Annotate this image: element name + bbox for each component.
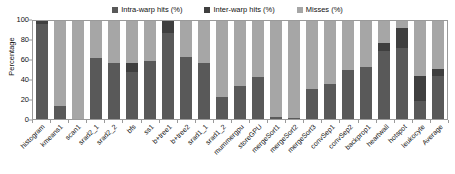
square-swatch-icon: [297, 7, 303, 13]
stacked-bar: [414, 21, 425, 119]
bar-segment: [90, 21, 101, 58]
bar-segment: [378, 51, 389, 119]
bar-slot: [177, 21, 195, 119]
y-axis-tick-mark: [29, 60, 32, 61]
y-axis-tick-label: 80: [21, 36, 29, 44]
stacked-bar: [342, 21, 353, 119]
bar-segment: [414, 21, 425, 76]
bar-slot: [339, 21, 357, 119]
y-axis-tick-mark: [29, 100, 32, 101]
bar-segment: [216, 21, 227, 97]
bar-segment: [360, 67, 371, 119]
bar-segment: [234, 21, 245, 86]
stacked-bar: [306, 21, 317, 119]
bar-segment: [360, 21, 371, 67]
x-axis-label-slot: srad1_1: [195, 121, 213, 174]
stacked-bar: [36, 21, 47, 119]
bar-segment: [180, 57, 191, 119]
bar-segment: [144, 21, 155, 61]
bar-segment: [270, 21, 281, 117]
bar-segment: [162, 21, 173, 33]
legend-item: Misses (%): [297, 5, 343, 14]
x-axis-label-slot: backprop1: [358, 121, 376, 174]
x-axis-label-slot: kmeans1: [50, 121, 68, 174]
bar-slot: [123, 21, 141, 119]
x-axis-label-slot: leukocyte: [412, 121, 430, 174]
bar-segment: [396, 28, 407, 49]
stacked-bar: [324, 21, 335, 119]
bar-segment: [180, 21, 191, 57]
bar-slot: [321, 21, 339, 119]
bar-group: [33, 21, 447, 119]
stacked-bar: [270, 21, 281, 119]
bar-slot: [231, 21, 249, 119]
bar-segment: [54, 106, 65, 119]
legend-item: Intra-warp hits (%): [112, 5, 182, 14]
bar-segment: [324, 84, 335, 119]
y-axis-tick-label: 20: [21, 96, 29, 104]
bar-segment: [108, 63, 119, 119]
y-axis-title: Percentage: [7, 22, 16, 92]
bar-slot: [375, 21, 393, 119]
bar-slot: [303, 21, 321, 119]
x-axis-label-slot: b+tree2: [177, 121, 195, 174]
x-axis-label-slot: scan1: [68, 121, 86, 174]
bar-segment: [126, 63, 137, 72]
bar-slot: [393, 21, 411, 119]
square-swatch-icon: [112, 7, 118, 13]
bar-segment: [216, 97, 227, 119]
bar-segment: [126, 72, 137, 119]
bar-segment: [396, 21, 407, 28]
stacked-bar: [378, 21, 389, 119]
bar-segment: [432, 21, 443, 69]
stacked-bar: [432, 21, 443, 119]
stacked-bar: [162, 21, 173, 119]
bar-segment: [252, 21, 263, 77]
bar-slot: [195, 21, 213, 119]
stacked-bar: [180, 21, 191, 119]
y-axis-tick-mark: [29, 20, 32, 21]
bar-segment: [144, 61, 155, 119]
legend-label: Inter-warp hits (%): [213, 5, 274, 14]
x-axis-label: bfs: [125, 123, 137, 135]
bar-slot: [87, 21, 105, 119]
bar-segment: [270, 117, 281, 119]
square-swatch-icon: [204, 7, 210, 13]
y-axis-tick-label: 40: [21, 76, 29, 84]
x-axis-label-slot: srad2_1: [86, 121, 104, 174]
y-axis-tick-label: 60: [21, 56, 29, 64]
stacked-bar: [144, 21, 155, 119]
legend-label: Intra-warp hits (%): [121, 5, 182, 14]
stacked-bar: [198, 21, 209, 119]
stacked-bar: [288, 21, 299, 119]
bar-segment: [72, 21, 83, 119]
bar-segment: [378, 21, 389, 43]
x-axis-label-slot: heartwall: [376, 121, 394, 174]
x-axis-label-slot: b+tree1: [159, 121, 177, 174]
stacked-bar: [396, 21, 407, 119]
bar-segment: [342, 70, 353, 119]
bar-slot: [267, 21, 285, 119]
bar-slot: [213, 21, 231, 119]
x-axis-label-slot: ss1: [141, 121, 159, 174]
bar-segment: [288, 118, 299, 119]
x-axis-label-slot: bfs: [122, 121, 140, 174]
bar-segment: [54, 21, 65, 106]
bar-slot: [33, 21, 51, 119]
bar-segment: [342, 21, 353, 70]
bar-slot: [105, 21, 123, 119]
bar-segment: [306, 89, 317, 119]
legend-label: Misses (%): [306, 5, 343, 14]
bar-segment: [432, 76, 443, 119]
chart-legend: Intra-warp hits (%)Inter-warp hits (%)Mi…: [0, 3, 455, 16]
plot-area: 020406080100: [32, 20, 448, 120]
bar-slot: [51, 21, 69, 119]
y-axis-tick-label: 100: [16, 16, 29, 24]
x-axis-label: ss1: [142, 123, 155, 136]
bar-slot: [69, 21, 87, 119]
stacked-bar: [216, 21, 227, 119]
stacked-bar: [234, 21, 245, 119]
x-axis-labels: histogramkmeans1scan1srad2_1srad2_2bfsss…: [32, 121, 448, 174]
bar-slot: [429, 21, 447, 119]
bar-slot: [141, 21, 159, 119]
